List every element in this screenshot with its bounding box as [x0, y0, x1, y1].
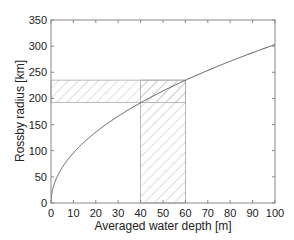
- y-tick-label: 200: [29, 92, 47, 104]
- x-tick-label: 40: [134, 207, 146, 219]
- y-tick-label: 50: [35, 171, 47, 183]
- y-axis-label: Rossby radius [km]: [13, 60, 27, 162]
- y-tick-label: 350: [29, 14, 47, 26]
- y-tick-label: 250: [29, 66, 47, 78]
- chart: 0102030405060708090100050100150200250300…: [0, 0, 294, 240]
- x-tick-label: 80: [224, 207, 236, 219]
- x-axis-label: Averaged water depth [m]: [94, 219, 231, 233]
- y-tick-label: 0: [41, 197, 47, 209]
- x-tick-label: 20: [90, 207, 102, 219]
- y-tick-label: 300: [29, 40, 47, 52]
- x-tick-label: 70: [202, 207, 214, 219]
- x-tick-label: 60: [179, 207, 191, 219]
- y-tick-label: 100: [29, 145, 47, 157]
- x-tick-label: 10: [67, 207, 79, 219]
- x-tick-label: 50: [157, 207, 169, 219]
- x-tick-label: 100: [266, 207, 284, 219]
- x-tick-label: 30: [112, 207, 124, 219]
- y-tick-label: 150: [29, 119, 47, 131]
- hatched-bands: [51, 80, 185, 203]
- x-tick-label: 90: [246, 207, 258, 219]
- x-tick-label: 0: [48, 207, 54, 219]
